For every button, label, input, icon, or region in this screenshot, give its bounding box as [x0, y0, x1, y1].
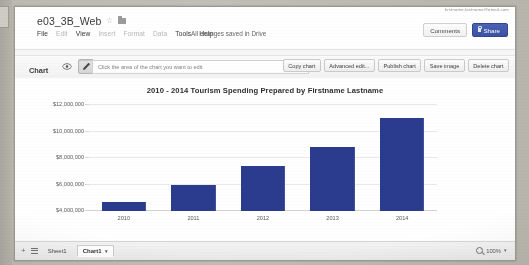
chart-y-axis-label: $6,000,000: [56, 181, 84, 187]
save-status-text: All changes saved in Drive: [191, 30, 266, 37]
scan-left-margin: [0, 0, 12, 265]
zoom-control[interactable]: 100% ▾: [476, 247, 507, 254]
share-button-label: Share: [483, 27, 500, 34]
chart-x-axis-label: 2013: [298, 215, 368, 221]
chart-title[interactable]: 2010 - 2014 Tourism Spending Prepared by…: [15, 86, 515, 95]
chart-edit-hint-text: Click the area of the chart you want to …: [93, 64, 202, 70]
chart-bar-slot[interactable]: 2012: [228, 105, 298, 211]
folder-icon[interactable]: [118, 18, 126, 25]
chart-action-buttons: Copy chart Advanced edit... Publish char…: [283, 59, 509, 72]
sheet-tab-chart1[interactable]: Chart1 ▾: [77, 245, 114, 257]
chart-bar[interactable]: [380, 118, 425, 211]
share-button[interactable]: Share: [472, 23, 508, 37]
chart-bar[interactable]: [171, 185, 216, 212]
chart-y-axis-label: $8,000,000: [56, 154, 84, 160]
sheet-tab-bar: + Sheet1 Chart1 ▾ 100% ▾: [15, 241, 515, 260]
document-header: e03_3B_Web ☆ File Edit View Insert Forma…: [15, 11, 515, 49]
document-title-row: e03_3B_Web ☆: [37, 15, 126, 27]
chart-edit-hint-box: Click the area of the chart you want to …: [92, 60, 309, 75]
chart-bar-slot[interactable]: 2014: [367, 105, 437, 211]
menu-item-edit[interactable]: Edit: [56, 30, 68, 37]
chart-editor-toolbar: Chart Click the area of the chart you: [15, 56, 515, 79]
chart-y-axis-label: $10,000,000: [53, 128, 84, 134]
chart-y-axis-label: $12,000,000: [53, 101, 84, 107]
menu-item-insert[interactable]: Insert: [98, 30, 115, 37]
pencil-icon: [82, 62, 91, 71]
chart-bar-slot[interactable]: 2011: [159, 105, 229, 211]
scan-page-tab: [0, 6, 9, 28]
chart-bar-slot[interactable]: 2013: [298, 105, 368, 211]
lock-icon: [478, 28, 481, 32]
chart-bars-group: 20102011201220132014: [89, 105, 437, 211]
header-actions: Comments Share: [423, 23, 508, 37]
chart-x-axis-label: 2012: [228, 215, 298, 221]
menu-item-format[interactable]: Format: [123, 30, 144, 37]
menubar: File Edit View Insert Format Data Tools …: [37, 30, 213, 37]
spreadsheet-app-window: firstname.lastname@gmail.com e03_3B_Web …: [14, 6, 516, 261]
menu-item-data[interactable]: Data: [153, 30, 167, 37]
sheet-tab-chart1-label: Chart1: [83, 248, 102, 254]
chart-bar[interactable]: [102, 202, 147, 211]
chart-canvas[interactable]: 2010 - 2014 Tourism Spending Prepared by…: [15, 78, 515, 235]
list-menu-icon[interactable]: [31, 248, 38, 255]
chevron-down-icon[interactable]: ▾: [105, 249, 108, 254]
publish-chart-button[interactable]: Publish chart: [378, 59, 421, 72]
chart-section-label: Chart: [29, 66, 48, 75]
chart-bar-slot[interactable]: 2010: [89, 105, 159, 211]
delete-chart-button[interactable]: Delete chart: [468, 59, 509, 72]
page-title[interactable]: e03_3B_Web: [37, 15, 101, 27]
chart-mode-toggle-group: [59, 59, 94, 74]
menu-item-file[interactable]: File: [37, 30, 48, 37]
chart-x-axis-label: 2014: [367, 215, 437, 221]
copy-chart-button[interactable]: Copy chart: [283, 59, 321, 72]
save-image-button[interactable]: Save image: [424, 59, 465, 72]
zoom-chevron-down-icon[interactable]: ▾: [504, 248, 507, 253]
sheet-tab-sheet1[interactable]: Sheet1: [43, 246, 72, 256]
chart-plot-area[interactable]: $4,000,000$6,000,000$8,000,000$10,000,00…: [89, 105, 437, 211]
magnifier-icon: [476, 247, 483, 254]
advanced-edit-button[interactable]: Advanced edit...: [324, 59, 375, 72]
screenshot-root: firstname.lastname@gmail.com e03_3B_Web …: [0, 0, 529, 265]
star-outline-icon[interactable]: ☆: [106, 17, 113, 25]
zoom-level-label: 100%: [486, 248, 501, 254]
menu-item-view[interactable]: View: [76, 30, 91, 37]
chart-x-axis-label: 2011: [159, 215, 229, 221]
chart-x-axis-label: 2010: [89, 215, 159, 221]
plus-icon[interactable]: +: [21, 247, 26, 255]
eye-icon-button[interactable]: [59, 59, 75, 74]
chart-bar[interactable]: [310, 147, 355, 211]
chart-y-axis-label: $4,000,000: [56, 207, 84, 213]
sheet-bar-left-controls: + Sheet1 Chart1 ▾: [21, 245, 114, 257]
menu-item-tools[interactable]: Tools: [175, 30, 191, 37]
comments-button[interactable]: Comments: [423, 23, 467, 37]
eye-icon: [62, 63, 72, 70]
chart-bar[interactable]: [241, 166, 286, 211]
